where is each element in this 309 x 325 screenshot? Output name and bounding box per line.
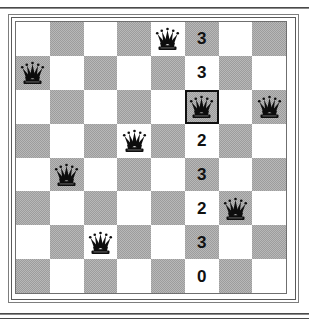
board-cell[interactable] — [50, 158, 84, 192]
board-cell[interactable] — [16, 56, 50, 90]
bottom-divider-rule — [0, 313, 309, 315]
black-queen-icon — [19, 60, 46, 85]
board-cell[interactable] — [252, 259, 286, 293]
board-cell[interactable] — [117, 56, 151, 90]
board-cell[interactable] — [151, 225, 185, 259]
board-cell[interactable] — [84, 124, 118, 158]
board-cell[interactable] — [219, 225, 253, 259]
board-cell[interactable] — [252, 191, 286, 225]
board-cell[interactable] — [50, 191, 84, 225]
board-cell[interactable] — [252, 124, 286, 158]
board-cell[interactable] — [219, 56, 253, 90]
black-queen-icon — [121, 128, 148, 153]
black-queen-icon — [222, 196, 249, 221]
board-cell[interactable] — [50, 259, 84, 293]
board-cell[interactable] — [151, 158, 185, 192]
black-queen-icon — [256, 94, 283, 119]
board-cell[interactable] — [16, 259, 50, 293]
board-cell[interactable]: 3 — [185, 158, 219, 192]
board-cell[interactable] — [16, 124, 50, 158]
board-cell[interactable] — [117, 90, 151, 124]
board-cell[interactable]: 2 — [185, 124, 219, 158]
board-cell[interactable] — [84, 259, 118, 293]
board-cell[interactable] — [50, 56, 84, 90]
black-queen-icon — [53, 162, 80, 187]
board-cell[interactable] — [16, 225, 50, 259]
board-cell[interactable] — [252, 225, 286, 259]
board-cell[interactable] — [117, 124, 151, 158]
board-cell[interactable] — [50, 225, 84, 259]
board-cell[interactable] — [151, 56, 185, 90]
black-queen-icon — [154, 26, 181, 51]
board-cell[interactable] — [84, 90, 118, 124]
board-cell[interactable] — [219, 90, 253, 124]
row-count-label: 2 — [197, 132, 206, 149]
row-count-label: 3 — [197, 30, 206, 47]
board-cell[interactable] — [50, 124, 84, 158]
board-cell[interactable] — [252, 22, 286, 56]
board-cell[interactable] — [117, 158, 151, 192]
row-count-label: 0 — [197, 268, 206, 285]
board-cell[interactable]: 3 — [185, 22, 219, 56]
board-cell[interactable] — [117, 225, 151, 259]
board-cell[interactable] — [219, 259, 253, 293]
board-cell[interactable]: 0 — [185, 259, 219, 293]
board-cell[interactable] — [219, 158, 253, 192]
row-count-label: 3 — [197, 64, 206, 81]
board-cell[interactable] — [151, 22, 185, 56]
board-cell[interactable] — [117, 22, 151, 56]
board-cell[interactable] — [252, 90, 286, 124]
board-cell[interactable] — [219, 191, 253, 225]
bottom-divider-rule-secondary — [0, 318, 309, 319]
board-cell[interactable] — [151, 124, 185, 158]
top-divider-rule — [0, 7, 309, 9]
board-cell[interactable]: 2 — [185, 191, 219, 225]
board-cell[interactable] — [16, 158, 50, 192]
row-count-label: 3 — [197, 166, 206, 183]
board-cell[interactable] — [16, 22, 50, 56]
board-cell[interactable] — [84, 56, 118, 90]
board-cell[interactable] — [219, 124, 253, 158]
board-cell[interactable] — [219, 22, 253, 56]
board-cell[interactable] — [50, 90, 84, 124]
board-cell[interactable] — [84, 158, 118, 192]
board-cell[interactable] — [151, 191, 185, 225]
black-queen-icon — [87, 230, 114, 255]
board-cell-selected[interactable] — [185, 90, 219, 124]
board-cell[interactable] — [16, 191, 50, 225]
row-count-label: 2 — [197, 200, 206, 217]
board-cell[interactable]: 3 — [185, 225, 219, 259]
board-cell[interactable] — [50, 22, 84, 56]
board-cell[interactable] — [117, 191, 151, 225]
board-cell[interactable] — [252, 158, 286, 192]
row-count-label: 3 — [197, 234, 206, 251]
board-cell[interactable] — [151, 90, 185, 124]
black-queen-icon — [188, 94, 215, 119]
board-cell[interactable] — [84, 22, 118, 56]
chessboard[interactable]: 3323230 — [15, 21, 287, 294]
board-cell[interactable] — [84, 225, 118, 259]
board-cell[interactable] — [117, 259, 151, 293]
board-cell[interactable]: 3 — [185, 56, 219, 90]
board-cell[interactable] — [84, 191, 118, 225]
board-cell[interactable] — [16, 90, 50, 124]
board-cell[interactable] — [151, 259, 185, 293]
board-cell[interactable] — [252, 56, 286, 90]
